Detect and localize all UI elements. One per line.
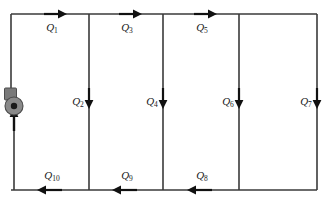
arrow-q2 — [85, 88, 94, 109]
arrow-q10 — [37, 186, 62, 195]
label-q5: Q5 — [196, 21, 208, 35]
pipe-network-diagram: Q1 Q3 Q5 Q2 Q4 Q6 Q7 Q10 Q9 Q8 — [0, 0, 329, 201]
label-q4: Q4 — [146, 95, 158, 109]
arrow-q4 — [159, 88, 168, 109]
flow-labels: Q1 Q3 Q5 Q2 Q4 Q6 Q7 Q10 Q9 Q8 — [44, 21, 312, 183]
arrow-q7 — [313, 88, 322, 109]
label-q9: Q9 — [121, 169, 133, 183]
label-q2: Q2 — [72, 95, 84, 109]
arrow-q5 — [194, 10, 217, 19]
label-q7: Q7 — [300, 95, 312, 109]
label-q3: Q3 — [121, 21, 133, 35]
pump-icon — [5, 88, 24, 115]
arrow-q6 — [235, 88, 244, 109]
arrow-q9 — [112, 186, 137, 195]
arrow-q3 — [119, 10, 142, 19]
label-q10: Q10 — [44, 169, 60, 183]
label-q1: Q1 — [46, 21, 58, 35]
network-svg: Q1 Q3 Q5 Q2 Q4 Q6 Q7 Q10 Q9 Q8 — [0, 0, 329, 201]
label-q6: Q6 — [222, 95, 234, 109]
arrow-q1 — [44, 10, 67, 19]
arrow-q8 — [187, 186, 212, 195]
label-q8: Q8 — [196, 169, 208, 183]
